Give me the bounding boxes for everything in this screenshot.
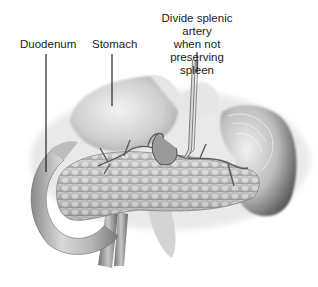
label-duodenum: Duodenum (20, 38, 76, 51)
label-stomach: Stomach (92, 38, 137, 51)
label-splenic-line-1: Divide splenic artery (149, 12, 245, 38)
label-splenic-artery: Divide splenic artery when not preservin… (149, 12, 245, 77)
anatomy-figure: Duodenum Stomach Divide splenic artery w… (0, 0, 318, 287)
label-splenic-line-3: spleen (149, 64, 245, 77)
label-splenic-line-2: when not preserving (149, 38, 245, 64)
